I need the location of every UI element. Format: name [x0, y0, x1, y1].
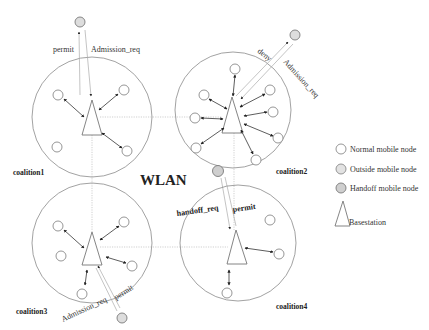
- outside-node-icon: [336, 164, 346, 174]
- wlan-coalition-diagram: permit Admission_req coalition1 deny Adm…: [0, 0, 429, 330]
- diagram-title: WLAN: [140, 172, 187, 188]
- normal-node-icon: [199, 90, 209, 100]
- coalition-1-label: coalition1: [13, 168, 44, 177]
- normal-node-icon: [190, 113, 200, 123]
- basestation-icon: [82, 232, 102, 265]
- permit-label: permit: [112, 283, 135, 302]
- legend-outside-label: Outside mobile node: [350, 165, 417, 174]
- coalition-1: permit Admission_req coalition1: [13, 17, 152, 177]
- normal-node-icon: [53, 90, 63, 100]
- normal-node-icon: [273, 133, 283, 143]
- admission-req-label: Admission_req: [60, 295, 108, 324]
- legend-handoff-label: Handoff mobile node: [350, 184, 419, 193]
- handoff-req-label: handoff_req: [176, 203, 219, 218]
- normal-node-icon: [336, 144, 346, 154]
- basestation-icon: [227, 230, 247, 264]
- legend-basestation-label: Basestation: [349, 218, 386, 227]
- handoff-node-icon: [213, 166, 224, 177]
- normal-node-icon: [53, 221, 63, 231]
- normal-node-icon: [122, 146, 132, 156]
- coalition-3: Admission_req permit coalition3: [16, 183, 152, 324]
- admission-req-label: Admission_req: [91, 45, 140, 54]
- legend: Normal mobile node Outside mobile node H…: [335, 144, 419, 227]
- normal-node-icon: [268, 107, 278, 117]
- normal-node-icon: [127, 261, 137, 271]
- coalition-2-label: coalition2: [276, 167, 307, 176]
- outside-node-icon: [75, 17, 85, 27]
- normal-node-icon: [230, 64, 240, 74]
- normal-node-icon: [222, 288, 232, 298]
- deny-label: deny: [256, 46, 274, 63]
- normal-node-icon: [56, 251, 66, 261]
- basestation-icon: [222, 97, 243, 133]
- permit-label: permit: [232, 202, 256, 214]
- normal-node-icon: [265, 215, 275, 225]
- legend-normal-label: Normal mobile node: [350, 145, 417, 154]
- permit-label: permit: [53, 45, 75, 54]
- admission-req-label: Admission_req: [282, 57, 321, 99]
- normal-node-icon: [251, 155, 261, 165]
- outside-node-icon: [117, 313, 127, 323]
- handoff-node-icon: [336, 183, 346, 193]
- normal-node-icon: [52, 142, 62, 152]
- handoff-exchange: handoff_req permit: [176, 166, 256, 230]
- normal-node-icon: [119, 85, 129, 95]
- basestation-icon: [82, 100, 102, 135]
- normal-node-icon: [274, 249, 284, 259]
- outside-node-icon: [290, 30, 300, 40]
- coalition-4-label: coalition4: [276, 302, 307, 311]
- normal-node-icon: [77, 289, 87, 299]
- coalition-2: deny Admission_req coalition2: [175, 30, 321, 176]
- normal-node-icon: [119, 217, 129, 227]
- basestation-icon: [335, 201, 350, 226]
- normal-node-icon: [265, 85, 275, 95]
- normal-node-icon: [191, 143, 201, 153]
- coalition-3-label: coalition3: [16, 307, 47, 316]
